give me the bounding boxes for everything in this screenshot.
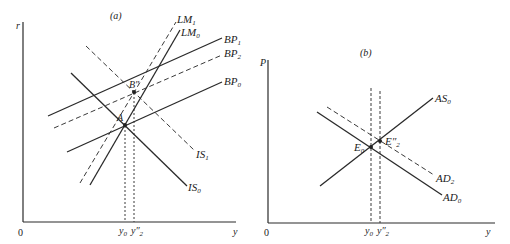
panel-a-y-axis-label: r xyxy=(16,20,20,31)
lm1-curve xyxy=(80,22,176,183)
panel-a-y0-tick: y0 xyxy=(118,225,127,238)
point-e2-marker xyxy=(378,139,382,143)
bp1-curve xyxy=(48,38,222,116)
point-e2-label: E″2 xyxy=(384,135,400,149)
bp2-label: BP2 xyxy=(224,47,241,61)
point-a-label: A xyxy=(116,112,124,123)
panel-a-title: (a) xyxy=(110,10,122,22)
panel-b-origin-label: 0 xyxy=(264,227,269,238)
panel-b-y0-tick: y0 xyxy=(364,225,373,238)
panel-a-y2-tick: y″2 xyxy=(130,225,144,238)
panel-b-y2-tick: y″2 xyxy=(376,225,390,238)
lm0-label: LM0 xyxy=(180,26,200,40)
is0-label: IS0 xyxy=(187,181,201,195)
point-a-marker xyxy=(123,123,127,127)
ad2-label: AD2 xyxy=(435,172,455,186)
lm1-label: LM1 xyxy=(176,13,196,27)
panel-a-x-axis-label: y xyxy=(232,226,238,237)
panel-b-x-axis-label: y xyxy=(485,226,491,237)
ad0-label: AD0 xyxy=(442,191,462,205)
as0-label: AS0 xyxy=(434,92,451,106)
panel-a-origin-label: 0 xyxy=(18,227,23,238)
point-b-label: B″ xyxy=(129,79,140,90)
point-b-marker xyxy=(132,90,136,94)
bp2-curve xyxy=(54,55,222,128)
panel-b-y-axis-label: P xyxy=(259,57,266,68)
bp0-label: BP0 xyxy=(224,75,241,89)
point-e0-marker xyxy=(369,145,373,149)
is1-label: IS1 xyxy=(195,148,209,162)
bp1-label: BP1 xyxy=(224,33,241,47)
diagram-canvas: (a) r y 0 A B″ LM1 LM0 BP1 BP2 BP0 IS1 I… xyxy=(0,0,510,244)
as0-curve xyxy=(320,98,433,186)
panel-b: (b) P y 0 E0 E″2 AS0 AD2 AD0 y0 y″2 xyxy=(259,47,495,238)
panel-a: (a) r y 0 A B″ LM1 LM0 BP1 BP2 BP0 IS1 I… xyxy=(16,10,241,238)
panel-b-title: (b) xyxy=(360,47,372,59)
